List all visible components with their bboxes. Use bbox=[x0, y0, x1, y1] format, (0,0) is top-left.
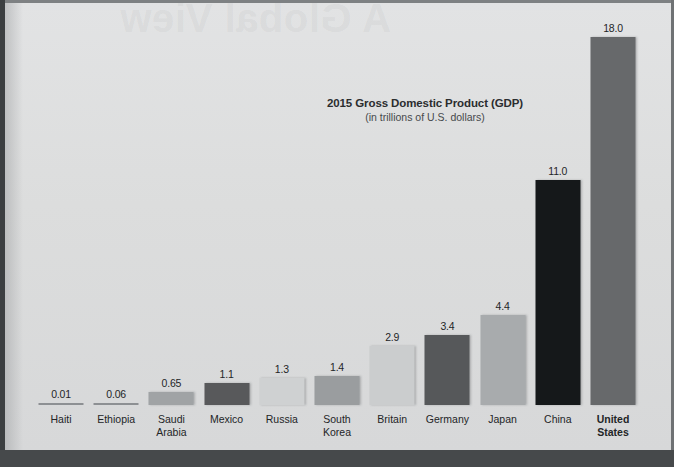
bar-chart-plot-area: 0.01Haiti0.06Ethiopia0.65Saudi Arabia1.1… bbox=[5, 3, 671, 450]
bar-value-label: 2.9 bbox=[385, 331, 399, 343]
bar-value-label: 0.06 bbox=[106, 388, 126, 400]
bar-value-label: 1.4 bbox=[330, 361, 344, 373]
bar-value-label: 18.0 bbox=[603, 22, 623, 34]
bar-category-label: Japan bbox=[472, 413, 534, 426]
bar-category-label: Ethiopia bbox=[85, 413, 147, 426]
bar-category-label: Russia bbox=[251, 413, 313, 426]
bar[interactable] bbox=[591, 37, 636, 405]
scan-edge-left bbox=[0, 0, 5, 467]
bar-category-label: Britain bbox=[361, 413, 423, 426]
bar-category-label: Haiti bbox=[30, 413, 92, 426]
chart-subtitle: (in trillions of U.S. dollars) bbox=[295, 110, 555, 125]
chart-title-block: 2015 Gross Domestic Product (GDP) (in tr… bbox=[295, 96, 555, 125]
bar-category-label: Mexico bbox=[196, 413, 258, 426]
bar-category-label: China bbox=[527, 413, 589, 426]
bar-category-label: Germany bbox=[416, 413, 478, 426]
scan-edge-bottom bbox=[0, 450, 674, 467]
bar-category-label: United States bbox=[582, 413, 644, 439]
chart-page: A Global View 2015 Gross Domestic Produc… bbox=[0, 0, 674, 467]
bar-value-label: 0.01 bbox=[51, 388, 71, 400]
bar-value-label: 3.4 bbox=[440, 320, 454, 332]
bar-group[interactable]: 18.0United States bbox=[573, 35, 653, 405]
bar-value-label: 1.3 bbox=[275, 363, 289, 375]
bar-value-label: 0.65 bbox=[162, 377, 182, 389]
chart-title: 2015 Gross Domestic Product (GDP) bbox=[295, 96, 555, 110]
bar-value-label: 11.0 bbox=[548, 165, 567, 177]
bar-category-label: Saudi Arabia bbox=[140, 413, 202, 439]
bar-value-label: 4.4 bbox=[496, 300, 510, 312]
scan-edge-top bbox=[0, 0, 674, 3]
bar-category-label: South Korea bbox=[306, 413, 368, 439]
bar-value-label: 1.1 bbox=[220, 368, 234, 380]
